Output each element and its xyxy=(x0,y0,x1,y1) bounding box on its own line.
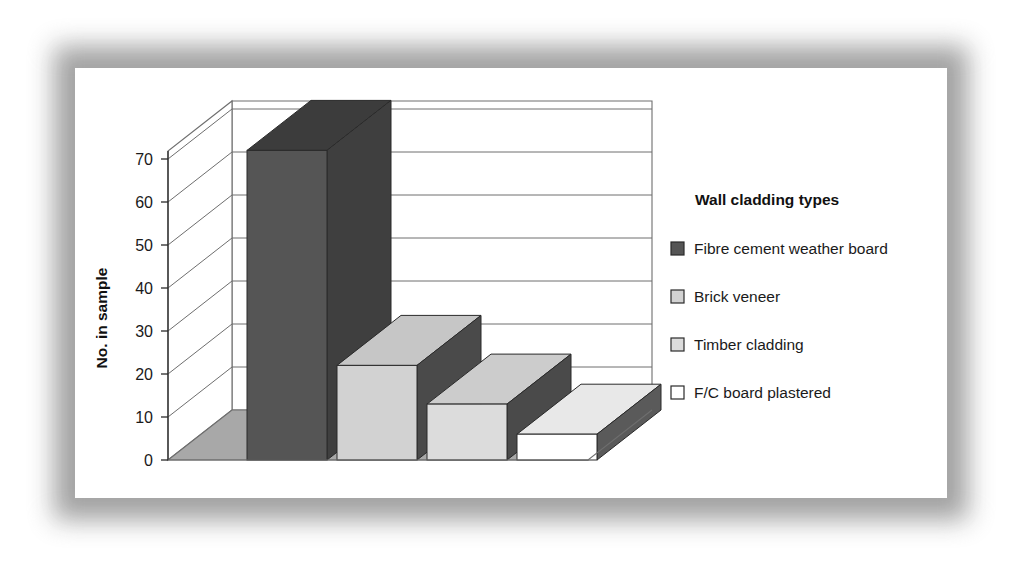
legend-item-label: Brick veneer xyxy=(694,288,780,305)
legend-swatch-icon xyxy=(671,242,684,255)
bar-chart-3d: 70 60 50 40 30 20 10 0 No. in sample xyxy=(75,68,947,498)
legend-item[interactable]: Timber cladding xyxy=(671,336,804,353)
y-tick-label: 10 xyxy=(135,409,153,426)
legend-title: Wall cladding types xyxy=(695,191,839,208)
legend-item-label: Fibre cement weather board xyxy=(694,240,888,257)
screenshot-page: 70 60 50 40 30 20 10 0 No. in sample xyxy=(0,0,1023,562)
bar-front-face xyxy=(337,365,417,460)
chart-legend: Wall cladding types Fibre cement weather… xyxy=(671,191,888,401)
bar-front-face xyxy=(517,434,597,460)
chart-panel: 70 60 50 40 30 20 10 0 No. in sample xyxy=(75,68,947,498)
y-tick-label: 50 xyxy=(135,237,153,254)
bar-front-face xyxy=(427,404,507,460)
y-tick-label: 0 xyxy=(144,452,153,469)
legend-item[interactable]: F/C board plastered xyxy=(671,384,831,401)
y-tick-label: 70 xyxy=(135,151,153,168)
legend-item-label: F/C board plastered xyxy=(694,384,831,401)
bar-front-face xyxy=(247,150,327,460)
legend-swatch-icon xyxy=(671,290,684,303)
y-tick-labels: 70 60 50 40 30 20 10 0 xyxy=(135,151,153,469)
legend-item[interactable]: Brick veneer xyxy=(671,288,780,305)
legend-item[interactable]: Fibre cement weather board xyxy=(671,240,888,257)
y-axis xyxy=(161,151,168,460)
y-tick-label: 30 xyxy=(135,323,153,340)
y-axis-title: No. in sample xyxy=(93,267,110,368)
legend-swatch-icon xyxy=(671,386,684,399)
y-tick-label: 40 xyxy=(135,280,153,297)
legend-swatch-icon xyxy=(671,338,684,351)
y-tick-label: 20 xyxy=(135,366,153,383)
legend-item-label: Timber cladding xyxy=(694,336,804,353)
y-tick-label: 60 xyxy=(135,194,153,211)
